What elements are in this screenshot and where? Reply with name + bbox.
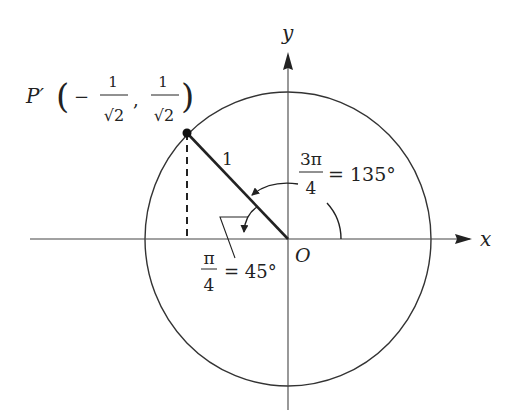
origin-label: O <box>295 244 311 266</box>
svg-text:,: , <box>133 89 139 110</box>
svg-text:4: 4 <box>306 178 317 198</box>
y-axis-label: y <box>281 21 294 45</box>
x-axis-label: x <box>480 227 491 251</box>
angle-arrow-135-icon <box>252 183 298 195</box>
radius-label: 1 <box>222 149 233 169</box>
svg-text:4: 4 <box>204 275 215 295</box>
point-p-prime <box>183 129 192 138</box>
svg-text:): ) <box>181 76 194 116</box>
angle-arc-start <box>327 203 341 239</box>
point-p-prime-label: P′ ( − 1 √2 , 1 √2 ) <box>25 73 194 125</box>
radius-line <box>187 133 288 239</box>
svg-text:3π: 3π <box>300 149 322 169</box>
svg-text:(: ( <box>56 76 69 116</box>
svg-text:π: π <box>203 248 214 268</box>
angle-label-135: 3π 4 = 135° <box>299 149 396 198</box>
svg-text:−: − <box>74 86 89 107</box>
angle-label-45: π 4 = 45° <box>201 248 277 295</box>
svg-text:P′: P′ <box>25 84 44 108</box>
y-axis-arrow-icon <box>283 52 293 70</box>
svg-text:= 135°: = 135° <box>328 163 396 185</box>
svg-text:√2: √2 <box>154 106 174 125</box>
unit-circle-diagram: x y O 1 P′ ( − 1 √2 , 1 √2 ) 3π 4 = 135° <box>0 0 513 420</box>
x-axis-arrow-icon <box>455 234 472 244</box>
svg-text:1: 1 <box>108 73 118 91</box>
angle-arrow-45-icon <box>244 207 257 232</box>
svg-text:1: 1 <box>158 73 168 91</box>
svg-text:= 45°: = 45° <box>224 261 277 282</box>
svg-text:√2: √2 <box>104 106 124 125</box>
angle-leader-line <box>220 217 248 258</box>
